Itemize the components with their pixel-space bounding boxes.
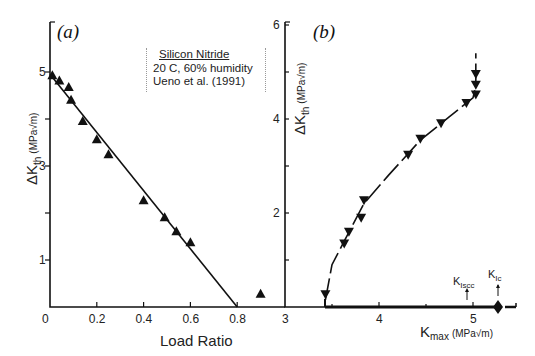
triangle-down-marker-icon [471,81,481,90]
legend-line-2: Ueno et al. (1991) [153,75,265,89]
legend-line-1: 20 C, 60% humidity [153,62,265,76]
panel-b-y-title: ΔKth(MPa√m) [291,63,311,135]
panel-a-y-ticks: 135 [39,65,50,267]
triangle-down-marker-icon [359,196,369,205]
figure: 00.20.40.60.8 135 (a) Load Ratio ΔKth(MP… [0,0,535,356]
panel-a-x-ticks: 00.20.40.60.8 [42,302,246,326]
kiscc-label: KIscc [453,275,475,290]
legend-box: Silicon Nitride 20 C, 60% humidity Ueno … [146,48,266,92]
panel-a-y-title: ΔKth(MPa√m) [23,113,43,185]
triangle-down-marker-icon [356,214,366,223]
panel-a-y-title-main: ΔKth(MPa√m) [23,113,43,185]
panel-b-markers [320,70,480,299]
panel-b-x-title: Kmax(MPa√m) [420,323,493,342]
triangle-up-marker-icon [256,289,266,298]
y-tick-label: 6 [273,18,280,32]
panel-b-label: (b) [313,21,335,43]
y-tick-label: 4 [273,112,280,126]
x-tick-label: 3 [282,312,289,326]
panel-b-trend-line [325,53,475,300]
triangle-down-marker-icon [436,119,446,128]
triangle-up-marker-icon [64,82,74,91]
triangle-up-marker-icon [139,195,149,204]
panel-b: 345 246 (b) Kmax(MPa√m) ΔKth(MPa√m) KIsc… [273,18,516,342]
y-tick-label: 1 [39,253,46,267]
y-tick-label: 5 [39,65,46,79]
triangle-down-marker-icon [344,228,354,237]
y-tick-label: 2 [273,206,280,220]
triangle-down-marker-icon [320,290,330,299]
panel-a-label: (a) [57,21,79,43]
x-tick-label: 0 [42,312,49,326]
kic-arrowhead-icon [496,284,500,288]
x-tick-label: 0.6 [182,312,199,326]
panel-a-fit-line [50,74,237,307]
panel-a-markers [47,70,265,298]
x-tick-label: 0.4 [136,312,153,326]
triangle-up-marker-icon [92,134,102,143]
triangle-down-marker-icon [471,70,481,79]
x-tick-label: 4 [376,312,383,326]
x-tick-label: 0.8 [229,312,246,326]
triangle-up-marker-icon [185,237,195,246]
kic-label: KIc [488,268,502,283]
x-tick-label: 0.2 [89,312,106,326]
panel-b-y-ticks: 246 [273,18,289,260]
legend-title: Silicon Nitride [153,48,265,62]
panel-b-y-title-main: ΔKth(MPa√m) [291,63,311,135]
panel-a-x-title: Load Ratio [160,332,233,349]
triangle-down-marker-icon [415,135,425,144]
x-tick-label: 5 [470,312,477,326]
kic-diamond-marker-icon [493,300,503,314]
